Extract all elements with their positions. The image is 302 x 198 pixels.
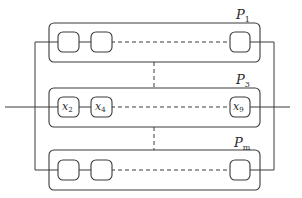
- process-diagram: P1 P3 x2 x4 x9 Pm: [0, 0, 302, 198]
- node-p1-3: [230, 32, 250, 52]
- node-p1-1: [58, 32, 79, 52]
- node-pm-3: [230, 160, 250, 180]
- process-label-p1: P1: [235, 7, 250, 24]
- node-p1-2: [91, 32, 112, 52]
- process-label-p3: P3: [235, 72, 250, 89]
- process-label-pm: Pm: [233, 135, 251, 152]
- process-panel-p3: P3 x2 x4 x9: [5, 72, 290, 127]
- right-outer-connector: [250, 42, 274, 170]
- process-panel-p1: P1: [49, 7, 260, 62]
- left-outer-connector: [35, 42, 58, 170]
- node-pm-1: [58, 160, 79, 180]
- node-pm-2: [91, 160, 112, 180]
